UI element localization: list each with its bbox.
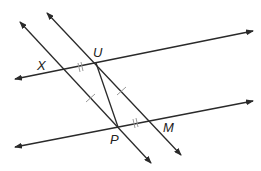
- segment-up: [96, 63, 118, 127]
- label-x: X: [36, 58, 47, 73]
- geometry-diagram: X U P M: [0, 0, 261, 171]
- double-tick-xu: [78, 62, 83, 72]
- diagram-svg: X U P M: [0, 0, 261, 171]
- label-p: P: [110, 132, 119, 147]
- label-m: M: [163, 120, 174, 135]
- double-tick-pm: [133, 118, 138, 128]
- label-u: U: [93, 45, 103, 60]
